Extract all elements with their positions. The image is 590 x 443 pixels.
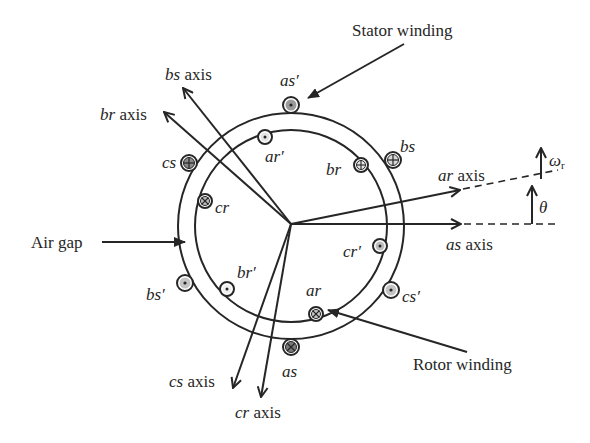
- br-prime-label: br′: [237, 263, 256, 282]
- slot-br-cross-icon: [354, 158, 368, 172]
- stator-slots: [177, 97, 401, 355]
- br-axis-label: br axis: [100, 105, 147, 124]
- bs-label: bs: [400, 137, 416, 156]
- omega-label: ωr: [549, 151, 565, 171]
- labels: Stator winding Rotor winding Air gap bs …: [31, 21, 565, 422]
- air-gap-label: Air gap: [31, 233, 82, 252]
- rotor-winding-label: Rotor winding: [413, 355, 512, 374]
- slot-cr-cross-icon: [198, 194, 212, 208]
- slot-cr-prime-dot-icon: [373, 239, 387, 253]
- slot-ar-prime-dot-icon: [258, 130, 272, 144]
- stator-winding-pointer: [308, 44, 404, 98]
- ar-axis-arrow: [291, 190, 460, 224]
- induction-machine-diagram: Stator winding Rotor winding Air gap bs …: [0, 0, 590, 443]
- slot-as-prime-dot-icon: [283, 97, 299, 113]
- as-label: as: [282, 362, 298, 381]
- stator-winding-label: Stator winding: [352, 21, 453, 40]
- magnetic-axes: [164, 88, 461, 397]
- cs-prime-label: cs′: [402, 287, 420, 306]
- cr-axis-label: cr axis: [235, 403, 281, 422]
- rotor-winding-pointer: [328, 310, 467, 352]
- slot-cs-cross-icon: [181, 155, 197, 171]
- slot-bs-cross-icon: [385, 152, 401, 168]
- slot-bs-prime-dot-icon: [177, 275, 193, 291]
- slot-ar-cross-icon: [309, 307, 323, 321]
- cr-prime-label: cr′: [343, 242, 361, 261]
- slot-as-cross-icon: [283, 339, 299, 355]
- bs-prime-label: bs′: [146, 285, 165, 304]
- as-prime-label: as′: [280, 71, 299, 90]
- cr-label: cr: [215, 198, 230, 217]
- br-label: br: [326, 160, 342, 179]
- ar-label: ar: [306, 281, 322, 300]
- cs-label: cs: [162, 153, 177, 172]
- slot-cs-prime-dot-icon: [383, 282, 399, 298]
- ar-axis-label: ar axis: [438, 166, 485, 185]
- ar-prime-label: ar′: [265, 147, 284, 166]
- cs-axis-label: cs axis: [169, 372, 215, 391]
- rotor-slots: [198, 130, 387, 321]
- theta-label: θ: [539, 198, 547, 217]
- as-axis-label: as axis: [446, 235, 493, 254]
- slot-br-prime-dot-icon: [220, 282, 234, 296]
- bs-axis-label: bs axis: [165, 65, 212, 84]
